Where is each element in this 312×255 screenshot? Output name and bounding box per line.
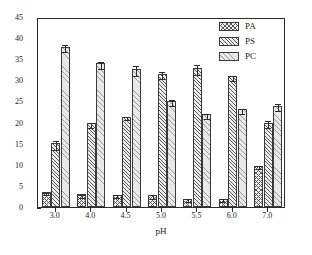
bar-ps-7.0 xyxy=(264,123,273,207)
y-tick-label: 20 xyxy=(0,120,23,128)
bar-pc-4.0 xyxy=(96,63,105,207)
error-bar-cap xyxy=(79,195,85,196)
x-axis-label: pH xyxy=(37,226,285,236)
error-bar-cap xyxy=(265,121,271,122)
y-tick-label: 15 xyxy=(0,141,23,149)
bar-pc-5.0 xyxy=(167,101,176,207)
error-bar-cap xyxy=(275,111,281,112)
error-bar-cap xyxy=(256,169,262,170)
error-bar-cap xyxy=(204,114,210,115)
x-tick-mark xyxy=(90,208,91,212)
error-bar-cap xyxy=(265,128,271,129)
error-bar-cap xyxy=(124,117,130,118)
error-bar-cap xyxy=(124,120,130,121)
error-bar-cap xyxy=(53,150,59,151)
legend-label-ps: PS xyxy=(245,37,255,46)
error-bar-cap xyxy=(43,195,49,196)
error-bar-cap xyxy=(150,195,156,196)
error-bar-cap xyxy=(133,66,139,67)
error-bar-cap xyxy=(204,119,210,120)
y-tick-label: 0 xyxy=(0,204,23,212)
bar-pc-6.0 xyxy=(238,109,247,207)
x-tick-label: 5.5 xyxy=(176,211,216,220)
x-tick-label: 7.0 xyxy=(247,211,287,220)
x-tick-label: 6.0 xyxy=(212,211,252,220)
error-bar-cap xyxy=(114,195,120,196)
error-bar-cap xyxy=(43,193,49,194)
bar-pc-7.0 xyxy=(273,106,282,207)
error-bar xyxy=(136,66,137,76)
x-tick-mark xyxy=(126,208,127,212)
error-bar-cap xyxy=(88,128,94,129)
error-bar-cap xyxy=(53,141,59,142)
error-bar-cap xyxy=(256,166,262,167)
error-bar xyxy=(162,72,163,79)
error-bar-cap xyxy=(230,76,236,77)
figure: 生成率(%) 051015202530354045 3.04.04.55.05.… xyxy=(0,0,312,255)
error-bar xyxy=(65,45,66,52)
error-bar-cap xyxy=(169,100,175,101)
y-tick-label: 45 xyxy=(0,14,23,22)
legend: PA PS PC xyxy=(219,20,287,65)
x-tick-mark xyxy=(161,208,162,212)
error-bar-cap xyxy=(88,123,94,124)
x-tick-label: 4.5 xyxy=(106,211,146,220)
error-bar-cap xyxy=(239,109,245,110)
error-bar-cap xyxy=(133,76,139,77)
legend-swatch-pc xyxy=(219,52,239,61)
error-bar xyxy=(268,121,269,129)
bar-ps-4.0 xyxy=(87,123,96,207)
error-bar-cap xyxy=(230,81,236,82)
bar-pc-4.5 xyxy=(132,69,141,207)
bar-pc-5.5 xyxy=(202,114,211,207)
legend-item-pa: PA xyxy=(219,20,287,33)
error-bar xyxy=(197,65,198,75)
error-bar xyxy=(101,62,102,69)
x-tick-mark xyxy=(267,208,268,212)
legend-swatch-ps xyxy=(219,37,239,46)
error-bar xyxy=(56,141,57,150)
bar-ps-5.0 xyxy=(158,74,167,207)
bar-pc-3.0 xyxy=(61,47,70,207)
error-bar-cap xyxy=(62,45,68,46)
error-bar-cap xyxy=(159,72,165,73)
error-bar-cap xyxy=(220,202,226,203)
legend-label-pa: PA xyxy=(245,22,256,31)
error-bar-cap xyxy=(194,65,200,66)
error-bar-cap xyxy=(220,199,226,200)
bar-ps-6.0 xyxy=(228,76,237,207)
error-bar-cap xyxy=(185,199,191,200)
error-bar-cap xyxy=(79,198,85,199)
error-bar-cap xyxy=(62,52,68,53)
y-tick-label: 25 xyxy=(0,98,23,106)
legend-swatch-pa xyxy=(219,22,239,31)
error-bar-cap xyxy=(159,79,165,80)
error-bar-cap xyxy=(275,104,281,105)
x-tick-mark xyxy=(232,208,233,212)
x-tick-mark xyxy=(55,208,56,212)
bar-ps-4.5 xyxy=(122,117,131,207)
error-bar xyxy=(278,104,279,112)
error-bar-cap xyxy=(239,114,245,115)
x-tick-label: 3.0 xyxy=(35,211,75,220)
error-bar-cap xyxy=(98,69,104,70)
error-bar-cap xyxy=(98,62,104,63)
legend-item-ps: PS xyxy=(219,35,287,48)
error-bar-cap xyxy=(150,199,156,200)
y-tick-label: 35 xyxy=(0,56,23,64)
y-tick-label: 10 xyxy=(0,162,23,170)
error-bar-cap xyxy=(185,202,191,203)
y-tick-label: 30 xyxy=(0,77,23,85)
legend-item-pc: PC xyxy=(219,50,287,63)
x-tick-label: 5.0 xyxy=(141,211,181,220)
error-bar-cap xyxy=(114,198,120,199)
bar-ps-3.0 xyxy=(51,143,60,207)
x-tick-label: 4.0 xyxy=(70,211,110,220)
error-bar-cap xyxy=(169,106,175,107)
y-tick-label: 5 xyxy=(0,183,23,191)
bar-pa-7.0 xyxy=(254,166,263,207)
bar-ps-5.5 xyxy=(193,68,202,207)
y-tick-mark xyxy=(37,208,41,209)
legend-label-pc: PC xyxy=(245,52,256,61)
x-tick-mark xyxy=(196,208,197,212)
